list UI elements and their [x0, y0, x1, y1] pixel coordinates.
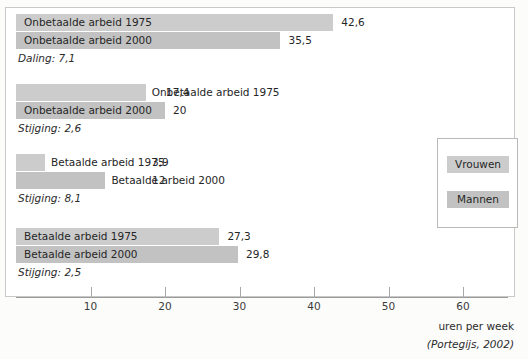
x-axis-tick-label: 60	[456, 300, 469, 312]
bar-label: Onbetaalde arbeid 1975	[24, 14, 152, 31]
bar-label: Onbetaalde arbeid 2000	[24, 102, 152, 119]
bar-value-label: 20	[173, 102, 186, 119]
bar-label: Betaalde arbeid 1975	[24, 228, 138, 245]
legend-item-mannen: Mannen	[447, 191, 509, 208]
x-axis-tick-label: 10	[84, 300, 97, 312]
x-axis-caption: uren per week	[438, 320, 514, 332]
bar-value-label: 42,6	[341, 14, 364, 31]
group-delta-label: Stijging: 2,6	[18, 122, 81, 134]
group-delta-label: Stijging: 8,1	[18, 192, 81, 204]
legend-item-vrouwen: Vrouwen	[447, 156, 509, 173]
x-axis-tick-label: 20	[158, 300, 171, 312]
x-axis-tick	[463, 287, 464, 298]
bar-value-label: 29,8	[246, 246, 269, 263]
bar-label: Betaalde arbeid 2000	[24, 246, 138, 263]
x-axis-tick-label: 40	[307, 300, 320, 312]
bar-label: Betaalde arbeid 1975	[51, 154, 165, 171]
x-axis-tick	[389, 287, 390, 298]
x-axis-tick	[240, 287, 241, 298]
bar-value-label: 35,5	[288, 32, 311, 49]
source-citation: (Portegijs, 2002)	[427, 338, 514, 350]
group-delta-label: Daling: 7,1	[18, 52, 75, 64]
bar	[16, 154, 45, 171]
group-delta-label: Stijging: 2,5	[18, 266, 81, 278]
bar	[16, 84, 146, 101]
bar	[16, 172, 105, 189]
x-axis-tick	[91, 287, 92, 298]
bar-value-label: 12	[152, 172, 165, 189]
x-axis-tick-label: 50	[382, 300, 395, 312]
bar-value-label: 17,4	[166, 84, 189, 101]
x-axis-tick	[165, 287, 166, 298]
x-axis-tick	[314, 287, 315, 298]
legend: Vrouwen Mannen	[437, 138, 518, 228]
bar-label: Onbetaalde arbeid 2000	[24, 32, 152, 49]
bar-value-label: 3,9	[152, 154, 169, 171]
bar-label: Betaalde arbeid 2000	[111, 172, 225, 189]
x-axis-tick-label: 30	[233, 300, 246, 312]
bar-value-label: 27,3	[227, 228, 250, 245]
